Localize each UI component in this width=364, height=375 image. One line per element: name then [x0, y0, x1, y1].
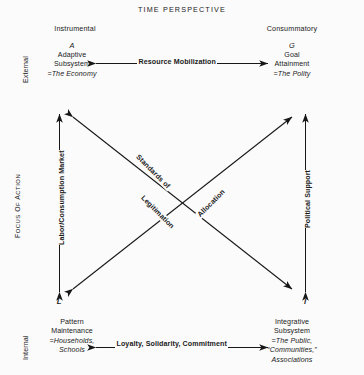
quadrant-line: Attainment	[236, 60, 348, 69]
quadrant-line: Integrative	[236, 318, 348, 327]
quadrant-emphasis: Associations	[236, 356, 348, 365]
quadrant-emphasis: “Communities,”	[236, 346, 348, 355]
arrow-label-loyalty-solidarity-commitment: Loyalty, Solidarity, Commitment	[115, 340, 228, 348]
quadrant-cell-pattern-maintenance: Pattern Maintenance =Households, Schools	[16, 318, 128, 356]
axis-label-focus-of-action: FOCUS OF ACTION	[14, 174, 21, 238]
quadrant-key-g: G	[236, 41, 348, 50]
quadrant-emphasis: =The Public,	[236, 337, 348, 346]
quadrant-line: Subsystem	[236, 327, 348, 336]
column-header-instrumental: Instrumental	[20, 24, 130, 33]
agil-paradigm-diagram: TIME PERSPECTIVE Instrumental Consummato…	[0, 0, 364, 375]
quadrant-key-a: A	[16, 41, 128, 50]
quadrant-line: Pattern	[16, 318, 128, 327]
quadrant-emphasis: =The Polity	[236, 70, 348, 79]
quadrant-line: Goal	[236, 51, 348, 60]
column-header-consummatory: Consummatory	[236, 24, 348, 33]
quadrant-emphasis: Schools	[16, 346, 128, 355]
quadrant-line: Subsystem	[16, 60, 128, 69]
quadrant-cell-goal-attainment: G Goal Attainment =The Polity	[236, 41, 348, 79]
arrow-label-labor-consumption-market: Labor/Consumption Market	[56, 150, 67, 245]
quadrant-emphasis: =The Economy	[16, 70, 128, 79]
quadrant-key-l: L	[52, 297, 66, 306]
quadrant-cell-adaptive: A Adaptive Subsystem =The Economy	[16, 41, 128, 79]
arrow-label-political-support: Political Support	[302, 170, 313, 228]
diagram-title: TIME PERSPECTIVE	[0, 5, 364, 14]
quadrant-line: Adaptive	[16, 51, 128, 60]
quadrant-cell-integrative: Integrative Subsystem =The Public, “Comm…	[236, 318, 348, 365]
arrow-label-resource-mobilization: Resource Mobilization	[137, 58, 217, 66]
quadrant-line: Maintenance	[16, 327, 128, 336]
quadrant-key-i: I	[298, 297, 312, 306]
quadrant-emphasis: =Households,	[16, 337, 128, 346]
